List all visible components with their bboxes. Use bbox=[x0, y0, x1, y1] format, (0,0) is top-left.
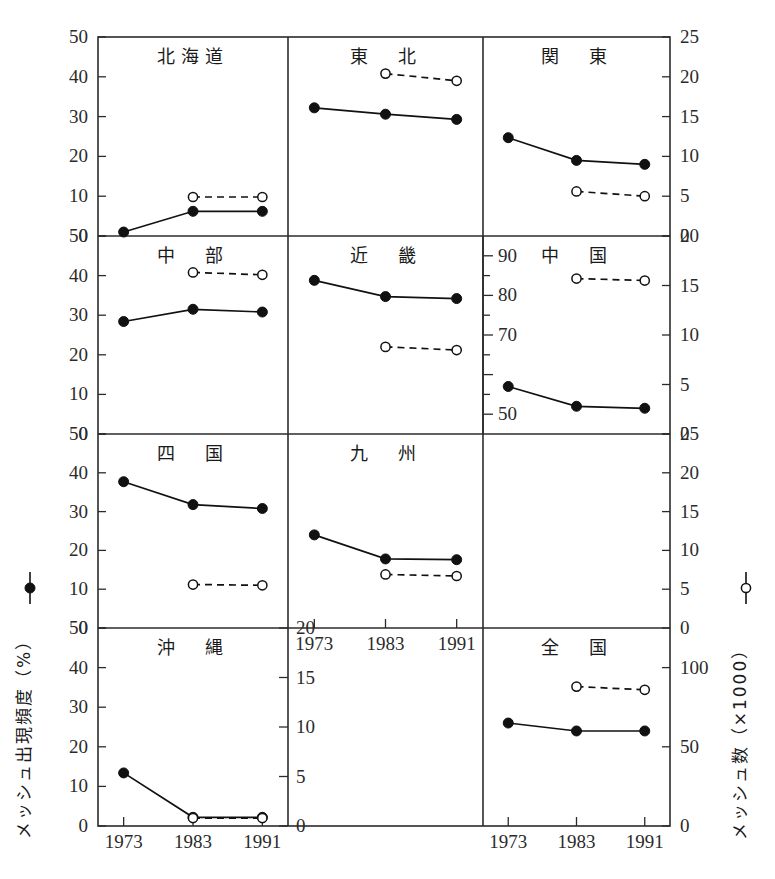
data-point-frequency bbox=[257, 206, 267, 216]
data-point-frequency bbox=[572, 726, 582, 736]
left-tick-label: 40 bbox=[69, 462, 88, 483]
data-point-meshcount bbox=[188, 813, 197, 822]
data-point-frequency bbox=[309, 530, 319, 540]
data-point-meshcount bbox=[452, 76, 461, 85]
left-tick-label: 20 bbox=[69, 539, 88, 560]
data-point-frequency bbox=[503, 381, 513, 391]
right-tick-label-zenkoku: 0 bbox=[680, 815, 690, 836]
right-tick-label: 20 bbox=[680, 66, 699, 87]
left-axis-percent bbox=[98, 37, 106, 826]
left-tick-label: 20 bbox=[69, 736, 88, 757]
right-tick-label: 15 bbox=[680, 501, 699, 522]
okinawa-right-tick-label: 10 bbox=[296, 716, 315, 737]
x-axis bbox=[508, 817, 645, 826]
legend-marker-meshcount bbox=[741, 572, 750, 604]
data-point-meshcount bbox=[640, 685, 649, 694]
data-point-meshcount bbox=[258, 192, 267, 201]
okinawa-right-tick-label: 0 bbox=[296, 815, 306, 836]
series-line-meshcount bbox=[386, 74, 457, 81]
x-tick-label: 1991 bbox=[438, 633, 476, 654]
panel-9 bbox=[503, 682, 650, 736]
data-point-frequency bbox=[503, 133, 513, 143]
right-axis-title: メッシュ数（×1000） bbox=[730, 640, 750, 841]
data-point-frequency bbox=[452, 294, 462, 304]
series-line-meshcount bbox=[577, 687, 645, 690]
left-tick-label: 50 bbox=[69, 617, 88, 638]
data-point-meshcount bbox=[452, 571, 461, 580]
panel-title: 中 国 bbox=[541, 245, 613, 266]
data-point-frequency bbox=[257, 503, 267, 513]
right-tick-label-chugoku: 5 bbox=[680, 374, 690, 395]
data-point-meshcount bbox=[640, 276, 649, 285]
panel-0 bbox=[119, 192, 268, 237]
left-tick-label: 30 bbox=[69, 304, 88, 325]
data-point-frequency bbox=[119, 768, 129, 778]
right-tick-label: 5 bbox=[680, 185, 690, 206]
series-line-meshcount bbox=[193, 585, 262, 586]
data-point-meshcount bbox=[572, 682, 581, 691]
x-tick-label: 1991 bbox=[243, 831, 281, 852]
data-point-frequency bbox=[572, 401, 582, 411]
data-point-meshcount bbox=[452, 345, 461, 354]
data-point-frequency bbox=[188, 500, 198, 510]
data-point-meshcount bbox=[258, 270, 267, 279]
panel-title: 四 国 bbox=[157, 443, 229, 464]
okinawa-right-axis bbox=[279, 628, 288, 826]
data-point-frequency bbox=[188, 206, 198, 216]
panel-title: 東 北 bbox=[350, 46, 422, 67]
data-point-frequency bbox=[309, 103, 319, 113]
data-point-meshcount bbox=[572, 274, 581, 283]
x-tick-label: 1973 bbox=[105, 831, 143, 852]
data-point-frequency bbox=[503, 718, 513, 728]
right-tick-label-zenkoku: 50 bbox=[680, 736, 699, 757]
data-point-meshcount bbox=[381, 342, 390, 351]
left-axis-title: メッシュ出現頻度（%） bbox=[14, 631, 34, 839]
data-point-meshcount bbox=[258, 813, 267, 822]
right-tick-label-chugoku: 15 bbox=[680, 275, 699, 296]
panel-3 bbox=[119, 268, 268, 327]
left-tick-label: 30 bbox=[69, 696, 88, 717]
data-point-meshcount bbox=[188, 268, 197, 277]
okinawa-right-tick-label: 15 bbox=[296, 667, 315, 688]
data-point-frequency bbox=[452, 114, 462, 124]
left-tick-label: 10 bbox=[69, 383, 88, 404]
left-tick-label: 10 bbox=[69, 185, 88, 206]
right-tick-label: 20 bbox=[680, 462, 699, 483]
figure-root: 0000101010102020202030303030404040405050… bbox=[0, 0, 775, 879]
panel-title: 関 東 bbox=[541, 46, 613, 67]
panel-4 bbox=[309, 275, 461, 354]
left-tick-label: 50 bbox=[69, 423, 88, 444]
panel-title: 北海道 bbox=[157, 46, 229, 67]
panel-title: 中 部 bbox=[157, 245, 229, 266]
left-tick-label: 40 bbox=[69, 657, 88, 678]
data-point-frequency bbox=[640, 726, 650, 736]
data-point-meshcount bbox=[258, 581, 267, 590]
multi-panel-line-chart: 0000101010102020202030303030404040405050… bbox=[0, 0, 775, 879]
left-tick-label: 40 bbox=[69, 265, 88, 286]
chugoku-left-tick-label: 50 bbox=[498, 403, 517, 424]
series-line-meshcount bbox=[193, 272, 262, 274]
series-line-meshcount bbox=[386, 347, 457, 350]
right-tick-label: 5 bbox=[680, 578, 690, 599]
legend-marker-frequency bbox=[25, 572, 35, 604]
data-point-frequency bbox=[188, 304, 198, 314]
chugoku-left-tick-label: 70 bbox=[498, 324, 517, 345]
data-point-meshcount bbox=[572, 187, 581, 196]
x-tick-label: 1983 bbox=[558, 831, 596, 852]
chugoku-left-axis bbox=[483, 236, 493, 434]
data-point-frequency bbox=[257, 307, 267, 317]
left-tick-label: 20 bbox=[69, 344, 88, 365]
okinawa-right-tick-label: 5 bbox=[296, 766, 306, 787]
x-tick-label: 1983 bbox=[367, 633, 405, 654]
data-point-frequency bbox=[452, 555, 462, 565]
data-point-frequency bbox=[381, 292, 391, 302]
panel-title: 九 州 bbox=[350, 443, 422, 464]
x-axis bbox=[314, 619, 456, 628]
data-point-frequency bbox=[119, 477, 129, 487]
series-line-meshcount bbox=[577, 279, 645, 281]
data-point-frequency bbox=[640, 403, 650, 413]
panel-5 bbox=[503, 274, 650, 413]
data-point-frequency bbox=[381, 109, 391, 119]
panel-1 bbox=[309, 69, 461, 124]
data-point-meshcount bbox=[381, 570, 390, 579]
